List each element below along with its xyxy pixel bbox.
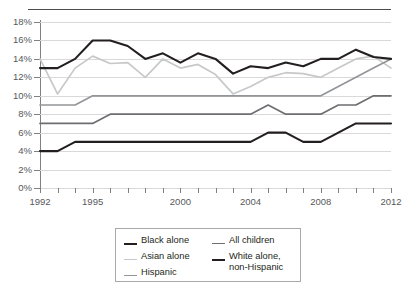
series-line xyxy=(40,123,391,151)
legend-swatch-icon xyxy=(212,254,225,264)
legend-item[interactable]: Hispanic xyxy=(124,267,212,280)
legend-swatch-icon xyxy=(124,238,137,248)
series-line xyxy=(40,56,391,94)
legend-column-right: All childrenWhite alone, non-Hispanic xyxy=(212,235,296,283)
legend-swatch-icon xyxy=(212,238,225,248)
legend-label: Hispanic xyxy=(141,267,177,278)
legend-item[interactable]: All children xyxy=(212,235,296,248)
legend-item[interactable]: White alone, non-Hispanic xyxy=(212,251,296,273)
series-line xyxy=(40,96,391,124)
legend-swatch-icon xyxy=(124,270,137,280)
chart-legend: Black aloneAsian aloneHispanicAll childr… xyxy=(115,228,301,282)
legend-item[interactable]: Asian alone xyxy=(124,251,212,264)
legend-label: Black alone xyxy=(141,235,189,246)
legend-label: White alone, non-Hispanic xyxy=(229,251,296,273)
legend-label: All children xyxy=(229,235,274,246)
legend-label: Asian alone xyxy=(141,251,190,262)
legend-column-left: Black aloneAsian aloneHispanic xyxy=(124,235,212,283)
legend-swatch-icon xyxy=(124,254,137,264)
series-line xyxy=(40,59,391,105)
legend-item[interactable]: Black alone xyxy=(124,235,212,248)
